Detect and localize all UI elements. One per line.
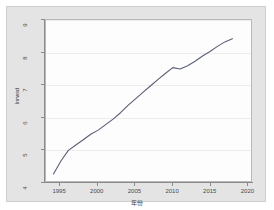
x-tick-label-2020: 2020 bbox=[234, 188, 260, 195]
x-axis-line bbox=[44, 182, 253, 183]
x-tick-1995 bbox=[59, 183, 60, 186]
x-tick-2015 bbox=[210, 183, 211, 186]
y-tick-5 bbox=[41, 149, 44, 150]
y-tick-6 bbox=[41, 117, 44, 118]
x-tick-2005 bbox=[134, 183, 135, 186]
y-axis-line bbox=[44, 19, 45, 183]
x-tick-2010 bbox=[172, 183, 173, 186]
y-tick-label-9: 9 bbox=[22, 19, 28, 31]
x-tick-label-2015: 2015 bbox=[197, 188, 223, 195]
y-axis-title: lnrwsd bbox=[14, 74, 20, 118]
y-tick-9 bbox=[41, 19, 44, 20]
y-tick-label-5: 5 bbox=[22, 149, 28, 161]
x-tick-label-1995: 1995 bbox=[46, 188, 72, 195]
y-tick-label-4: 4 bbox=[22, 182, 28, 194]
y-tick-label-7: 7 bbox=[22, 84, 28, 96]
data-line-lnrwsd bbox=[46, 20, 251, 181]
chart-screenshot: 9 8 7 6 5 4 1995 2000 2005 2010 2015 202… bbox=[0, 0, 274, 210]
x-tick-label-2010: 2010 bbox=[159, 188, 185, 195]
x-tick-label-2000: 2000 bbox=[84, 188, 110, 195]
x-tick-label-2005: 2005 bbox=[121, 188, 147, 195]
y-tick-label-6: 6 bbox=[22, 117, 28, 129]
x-tick-2020 bbox=[247, 183, 248, 186]
y-tick-7 bbox=[41, 84, 44, 85]
y-tick-8 bbox=[41, 52, 44, 53]
x-tick-2000 bbox=[97, 183, 98, 186]
graph-region: 9 8 7 6 5 4 1995 2000 2005 2010 2015 202… bbox=[6, 6, 266, 202]
plot-area bbox=[45, 19, 252, 182]
y-tick-label-8: 8 bbox=[22, 52, 28, 64]
x-axis-title: 年份 bbox=[7, 198, 267, 207]
y-tick-4 bbox=[41, 182, 44, 183]
